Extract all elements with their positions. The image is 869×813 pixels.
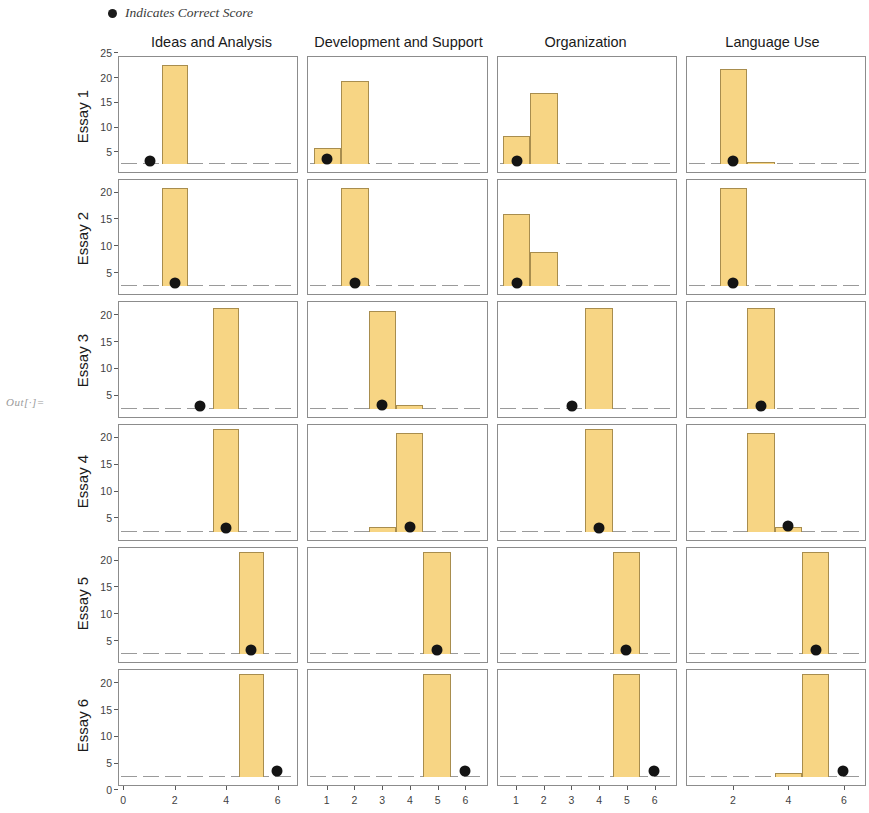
x-tick-label: 5 xyxy=(624,794,630,806)
correct-score-dot-icon xyxy=(783,520,794,531)
x-tick-label: 0 xyxy=(120,794,126,806)
plot-area xyxy=(498,184,676,287)
y-tick-label: 25 xyxy=(98,47,118,59)
column-header: Language Use xyxy=(679,34,866,54)
x-tick-label: 6 xyxy=(275,794,281,806)
histogram-bar xyxy=(503,214,530,287)
correct-score-dot-icon xyxy=(404,522,415,533)
y-tick-label: 15 xyxy=(98,704,118,716)
y-axes: 5101520255101520510152051015205101520051… xyxy=(82,56,118,786)
histogram-bar xyxy=(747,162,774,164)
facet-panel xyxy=(118,424,298,541)
histogram-bar xyxy=(747,308,774,409)
plot-area xyxy=(498,429,676,532)
plot-area xyxy=(687,306,865,409)
plot-area xyxy=(308,61,486,164)
correct-score-dot-icon xyxy=(566,400,577,411)
facet-panel xyxy=(497,301,677,418)
facet-panel xyxy=(118,669,298,786)
y-tick-label: 10 xyxy=(98,240,118,252)
correct-score-dot-icon xyxy=(810,645,821,656)
plot-area xyxy=(498,61,676,164)
x-tick-mark xyxy=(599,786,600,790)
y-axis: 510152025 xyxy=(82,56,118,173)
histogram-bar xyxy=(239,552,264,655)
output-label: Out[·]= xyxy=(6,396,45,408)
facet-panel xyxy=(307,669,487,786)
correct-score-dot-icon xyxy=(648,765,659,776)
correct-score-dot-icon xyxy=(511,155,522,166)
x-tick-mark xyxy=(465,786,466,790)
facet-panel xyxy=(686,56,866,173)
y-tick-label: 10 xyxy=(98,485,118,497)
y-tick-label: 5 xyxy=(98,267,118,279)
y-tick-label: 10 xyxy=(98,608,118,620)
correct-score-dot-icon xyxy=(755,400,766,411)
histogram-bar xyxy=(720,188,747,286)
x-tick-mark xyxy=(733,786,734,790)
plot-area xyxy=(498,552,676,655)
y-tick-label: 15 xyxy=(98,336,118,348)
row-labels: Essay 1Essay 2Essay 3Essay 4Essay 5Essay… xyxy=(56,56,82,786)
y-tick-label: 10 xyxy=(98,362,118,374)
y-axis: 5101520 xyxy=(82,179,118,296)
plot-area xyxy=(308,674,486,777)
x-tick-label: 6 xyxy=(841,794,847,806)
correct-score-dot-icon xyxy=(459,765,470,776)
y-tick-label: 5 xyxy=(98,512,118,524)
plot-area xyxy=(687,184,865,287)
legend-label: Indicates Correct Score xyxy=(125,5,253,21)
x-tick-mark xyxy=(571,786,572,790)
plot-area xyxy=(308,552,486,655)
correct-score-dot-icon xyxy=(511,277,522,288)
x-tick-label: 4 xyxy=(407,794,413,806)
histogram-bar xyxy=(162,188,187,286)
plot-area xyxy=(498,674,676,777)
correct-score-dot-icon xyxy=(108,9,117,18)
histogram-bar xyxy=(613,552,640,655)
x-tick-mark xyxy=(655,786,656,790)
y-tick-label: 15 xyxy=(98,458,118,470)
correct-score-dot-icon xyxy=(838,765,849,776)
x-tick-label: 6 xyxy=(652,794,658,806)
legend: Indicates Correct Score xyxy=(108,4,253,22)
x-axis: 0246 xyxy=(118,790,298,810)
plot-area xyxy=(119,184,297,287)
y-tick-label: 20 xyxy=(98,431,118,443)
plot-area xyxy=(308,184,486,287)
histogram-bar xyxy=(213,429,238,532)
histogram-bar xyxy=(613,674,640,777)
histogram-bar xyxy=(530,252,557,286)
x-tick-mark xyxy=(844,786,845,790)
x-tick-mark xyxy=(327,786,328,790)
histogram-bar xyxy=(423,674,450,777)
x-tick-mark xyxy=(123,786,124,790)
correct-score-dot-icon xyxy=(271,765,282,776)
y-tick-label: 20 xyxy=(98,186,118,198)
x-tick-label: 2 xyxy=(172,794,178,806)
facet-panel xyxy=(307,301,487,418)
correct-score-dot-icon xyxy=(349,277,360,288)
y-tick-label: 5 xyxy=(98,389,118,401)
column-header: Development and Support xyxy=(305,34,492,54)
x-axis: 123456 xyxy=(307,790,487,810)
facet-panel xyxy=(497,56,677,173)
plot-area xyxy=(687,429,865,532)
histogram-bar xyxy=(747,433,774,531)
x-tick-label: 2 xyxy=(351,794,357,806)
correct-score-dot-icon xyxy=(728,277,739,288)
y-tick-label: 20 xyxy=(98,554,118,566)
facet-panel xyxy=(686,669,866,786)
histogram-bar xyxy=(585,429,612,532)
column-headers: Ideas and AnalysisDevelopment and Suppor… xyxy=(118,34,866,54)
y-tick-label: 20 xyxy=(98,309,118,321)
x-tick-label: 5 xyxy=(435,794,441,806)
histogram-bar xyxy=(530,93,557,164)
facet-panel xyxy=(118,56,298,173)
x-tick-label: 3 xyxy=(379,794,385,806)
histogram-bar xyxy=(396,433,423,531)
chart-root: Out[·]= Indicates Correct Score Ideas an… xyxy=(0,0,869,813)
correct-score-dot-icon xyxy=(170,277,181,288)
x-axis: 246 xyxy=(686,790,866,810)
histogram-bar xyxy=(396,405,423,409)
